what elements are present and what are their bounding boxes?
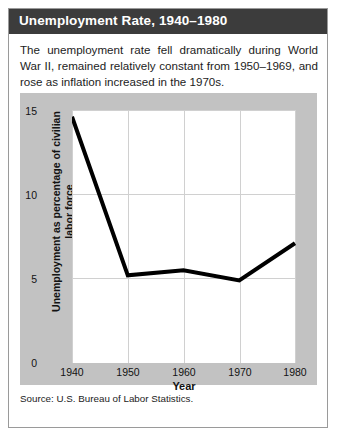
- chart-panel: Unemployment as percentage of civilian l…: [20, 93, 317, 385]
- x-tick-label-1960: 1960: [164, 366, 204, 378]
- y-tick-label-0: 0: [9, 357, 37, 369]
- figure-header: Unemployment Rate, 1940–1980: [9, 9, 327, 34]
- y-axis-title: Unemployment as percentage of civilian l…: [50, 102, 75, 322]
- y-tick-label-10: 10: [9, 189, 37, 201]
- figure-card: Unemployment Rate, 1940–1980 The unemplo…: [8, 8, 328, 428]
- x-tick-label-1970: 1970: [220, 366, 260, 378]
- data-line: [72, 117, 295, 281]
- source-block: Source: U.S. Bureau of Labor Statistics.: [9, 385, 327, 428]
- gridlines: [72, 110, 296, 363]
- x-tick-label-1950: 1950: [108, 366, 148, 378]
- y-tick-label-5: 5: [9, 273, 37, 285]
- figure-title: Unemployment Rate, 1940–1980: [19, 13, 227, 28]
- source-text: Source: U.S. Bureau of Labor Statistics.: [20, 393, 193, 404]
- y-tick-label-15: 15: [9, 105, 37, 117]
- x-tick-label-1940: 1940: [52, 366, 92, 378]
- plot-area: [72, 110, 296, 363]
- unemployment-line-chart: [72, 110, 296, 363]
- x-tick-label-1980: 1980: [275, 366, 315, 378]
- figure-caption: The unemployment rate fell dramatically …: [9, 34, 327, 93]
- caption-text: The unemployment rate fell dramatically …: [20, 42, 318, 91]
